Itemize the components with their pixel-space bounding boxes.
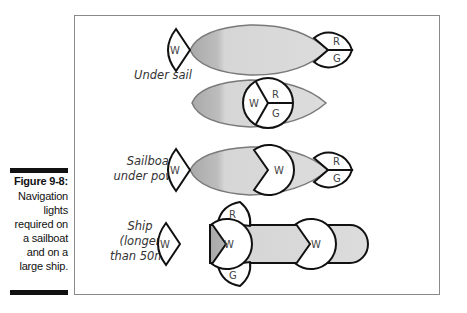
svg-text:G: G: [333, 173, 341, 184]
svg-text:W: W: [311, 239, 321, 250]
svg-text:G: G: [229, 270, 237, 281]
boat-under-power: W W R G: [168, 145, 352, 195]
boat-tricolor: W R G: [192, 78, 326, 128]
svg-text:G: G: [272, 108, 280, 119]
svg-text:W: W: [224, 239, 234, 250]
boat-under-sail: W R G: [168, 25, 352, 75]
svg-text:G: G: [333, 53, 341, 64]
svg-text:W: W: [249, 98, 259, 109]
svg-text:R: R: [333, 156, 340, 167]
svg-text:W: W: [170, 165, 180, 176]
svg-text:W: W: [274, 165, 284, 176]
svg-text:R: R: [272, 89, 279, 100]
navigation-lights-diagram: W R G W R G W W R G R G W W: [0, 0, 467, 313]
svg-text:R: R: [333, 36, 340, 47]
hull: [190, 25, 328, 75]
ship: R G W W W: [158, 202, 368, 286]
light-label-w: W: [170, 45, 180, 56]
svg-text:W: W: [160, 239, 170, 250]
